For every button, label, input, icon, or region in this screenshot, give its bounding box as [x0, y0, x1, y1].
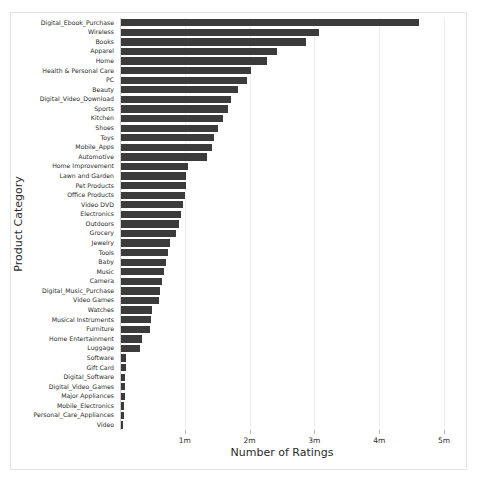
bar-row	[121, 143, 444, 153]
bar-row	[121, 114, 444, 124]
bar	[121, 67, 251, 74]
bar-row	[121, 392, 444, 402]
x-tick-label: 3m	[308, 436, 320, 445]
x-tick-mark	[444, 430, 445, 434]
bar	[121, 192, 185, 199]
y-tick-label: Sports	[14, 104, 117, 114]
bar	[121, 287, 160, 294]
y-tick-label: Furniture	[14, 325, 117, 335]
bar-row	[121, 104, 444, 114]
bar	[121, 86, 238, 93]
bar	[121, 29, 319, 36]
bar	[121, 115, 223, 122]
y-tick-label: Office Products	[14, 190, 117, 200]
bar-row	[121, 325, 444, 335]
bar	[121, 77, 247, 84]
bar-row	[121, 85, 444, 95]
y-tick-label: Home	[14, 56, 117, 66]
bar-row	[121, 267, 444, 277]
bar	[121, 421, 123, 428]
y-tick-label: Musical Instruments	[14, 315, 117, 325]
y-tick-label: Luggage	[14, 344, 117, 354]
bar	[121, 239, 170, 246]
bar-row	[121, 248, 444, 258]
y-tick-label: Home Entertainment	[14, 334, 117, 344]
bar-row	[121, 363, 444, 373]
bar	[121, 163, 188, 170]
bar	[121, 364, 126, 371]
bar-row	[121, 238, 444, 248]
bar-row	[121, 382, 444, 392]
y-tick-label: Gift Card	[14, 363, 117, 373]
bar	[121, 125, 218, 132]
bar-row	[121, 334, 444, 344]
bar-row	[121, 210, 444, 220]
x-tick-label: 5m	[438, 436, 450, 445]
bar	[121, 412, 124, 419]
bar-row	[121, 28, 444, 38]
y-tick-label: Video DVD	[14, 200, 117, 210]
bar-row	[121, 190, 444, 200]
y-tick-label: Video Games	[14, 296, 117, 306]
bar	[121, 383, 125, 390]
y-tick-label: Automotive	[14, 152, 117, 162]
y-tick-label: Digital_Music_Purchase	[14, 286, 117, 296]
y-tick-label: Baby	[14, 257, 117, 267]
y-tick-label: Beauty	[14, 85, 117, 95]
bar-row	[121, 152, 444, 162]
bar-row	[121, 315, 444, 325]
y-tick-label: Shoes	[14, 123, 117, 133]
bar-row	[121, 200, 444, 210]
y-tick-label: Grocery	[14, 229, 117, 239]
x-tick-label: 1m	[179, 436, 191, 445]
bar	[121, 96, 231, 103]
bar	[121, 211, 181, 218]
bar	[121, 38, 306, 45]
x-tick-label: 2m	[244, 436, 256, 445]
bar	[121, 345, 140, 352]
bar-row	[121, 181, 444, 191]
bar	[121, 374, 125, 381]
bar	[121, 19, 419, 26]
bar-row	[121, 353, 444, 363]
bar	[121, 153, 207, 160]
bar	[121, 306, 152, 313]
y-tick-label: Wireless	[14, 28, 117, 38]
x-tick-label: 4m	[373, 436, 385, 445]
bar	[121, 354, 126, 361]
y-tick-label: Apparel	[14, 47, 117, 57]
y-tick-label: Health & Personal Care	[14, 66, 117, 76]
bar	[121, 144, 212, 151]
bar-row	[121, 171, 444, 181]
bar-row	[121, 277, 444, 287]
y-tick-label: Digital_Video_Games	[14, 382, 117, 392]
y-axis-tick-labels: Digital_Ebook_PurchaseWirelessBooksAppar…	[14, 18, 117, 430]
bar	[121, 259, 166, 266]
y-tick-label: Major Appliances	[14, 392, 117, 402]
x-axis-label: Number of Ratings	[120, 446, 444, 459]
bar	[121, 249, 168, 256]
x-axis-ticks: 1m2m3m4m5m	[120, 430, 444, 446]
bar-row	[121, 372, 444, 382]
bar	[121, 172, 186, 179]
bar	[121, 402, 124, 409]
bar	[121, 134, 214, 141]
bar	[121, 182, 186, 189]
y-tick-label: Pet Products	[14, 181, 117, 191]
y-tick-label: Books	[14, 37, 117, 47]
y-tick-label: Music	[14, 267, 117, 277]
y-tick-label: Software	[14, 353, 117, 363]
bar	[121, 201, 183, 208]
bar-row	[121, 162, 444, 172]
bar	[121, 335, 142, 342]
bar	[121, 316, 151, 323]
bar-row	[121, 123, 444, 133]
y-tick-label: Digital_Ebook_Purchase	[14, 18, 117, 28]
y-tick-label: PC	[14, 75, 117, 85]
y-tick-label: Home Improvement	[14, 162, 117, 172]
y-tick-label: Camera	[14, 277, 117, 287]
bar-row	[121, 219, 444, 229]
bar	[121, 268, 164, 275]
bar-row	[121, 344, 444, 354]
x-tick-mark	[379, 430, 380, 434]
